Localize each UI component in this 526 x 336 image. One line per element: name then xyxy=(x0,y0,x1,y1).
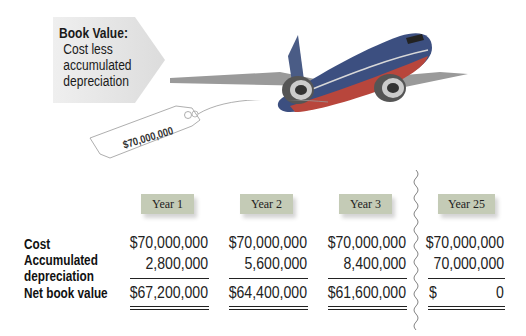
year-1-accum-dep: 2,800,000 xyxy=(145,255,208,273)
double-rule-top xyxy=(328,306,407,307)
year-2-cost: $70,000,000 xyxy=(229,234,307,252)
row-label-depreciation: depreciation xyxy=(24,268,94,284)
year-2-accum-dep: 5,600,000 xyxy=(244,255,307,273)
year-3-accum-dep: 8,400,000 xyxy=(343,255,406,273)
double-rule-bottom xyxy=(229,309,308,310)
double-rule-bottom xyxy=(428,309,505,310)
year-1-cost: $70,000,000 xyxy=(130,234,208,252)
book-value-callout: Book Value: Cost less accumulated deprec… xyxy=(53,17,165,103)
subtotal-rule xyxy=(229,278,308,279)
double-rule-top xyxy=(130,306,209,307)
callout-line: depreciation xyxy=(59,73,132,89)
double-rule-top xyxy=(229,306,308,307)
year-3-header: Year 3 xyxy=(339,194,392,214)
callout-line: accumulated xyxy=(59,57,132,73)
year-2-net-book-value: $64,400,000 xyxy=(229,284,307,302)
double-rule-bottom xyxy=(130,309,209,310)
row-label-cost: Cost xyxy=(24,236,50,252)
year-25-dollar-sign: $ xyxy=(429,284,437,302)
year-3-net-book-value: $61,600,000 xyxy=(328,284,406,302)
row-label-accumulated: Accumulated xyxy=(24,252,98,268)
callout-line: Cost less xyxy=(59,41,132,57)
subtotal-rule xyxy=(428,278,505,279)
year-1-header: Year 1 xyxy=(141,194,194,214)
year-2-header: Year 2 xyxy=(240,194,293,214)
row-label-net-book-value: Net book value xyxy=(24,285,108,301)
year-25-cost: $70,000,000 xyxy=(426,234,504,252)
callout-title: Book Value: xyxy=(59,25,132,41)
year-25-header: Year 25 xyxy=(438,194,495,214)
subtotal-rule xyxy=(328,278,407,279)
double-rule-bottom xyxy=(328,309,407,310)
double-rule-top xyxy=(428,306,505,307)
year-25-net-book-value: 0 xyxy=(496,284,504,302)
wavy-divider xyxy=(408,170,424,336)
year-25-accum-dep: 70,000,000 xyxy=(434,255,504,273)
subtotal-rule xyxy=(130,278,209,279)
year-3-cost: $70,000,000 xyxy=(328,234,406,252)
year-1-net-book-value: $67,200,000 xyxy=(130,284,208,302)
